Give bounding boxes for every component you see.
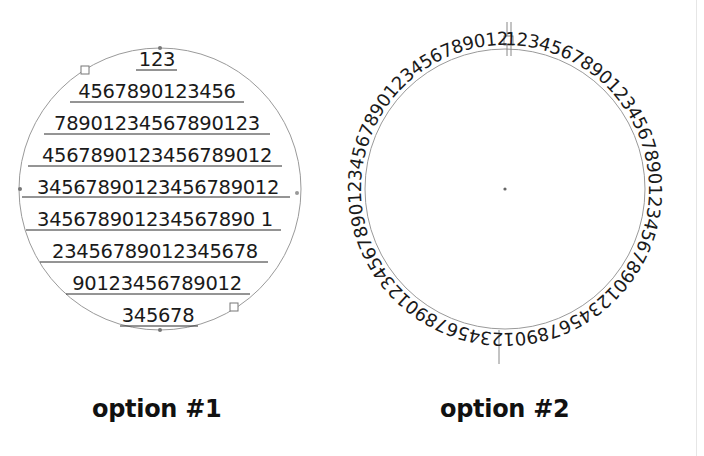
option1-caption: option #1 [92,395,221,423]
option1-text-block[interactable]: 123 4567890123456 78901234567890123 4567… [37,48,279,327]
option1-line-6: 345678901234567890 1 [37,208,273,231]
option1-line-8: 90123456789012 [72,272,242,295]
option1-line-5: 34567890123456789012 [37,176,279,199]
option1-line-2: 4567890123456 [78,80,235,103]
option1-line-7: 23456789012345678 [52,240,258,263]
option1-line-4: 4567890123456789012 [42,144,272,167]
option1-line-3: 78901234567890123 [54,112,260,135]
option1-in-port-handle[interactable] [81,66,89,74]
option1-line-9: 345678 [122,304,195,327]
option1-anchor-left[interactable] [18,187,22,191]
option2-center-point [503,187,506,190]
option1-line-1: 123 [139,48,175,71]
option1-anchor-right[interactable] [295,191,299,195]
option1-out-port-handle[interactable] [230,303,238,311]
option1-group[interactable]: 123 4567890123456 78901234567890123 4567… [18,46,301,332]
canvas: 123 4567890123456 78901234567890123 4567… [0,0,704,456]
option1-anchor-bottom[interactable] [158,328,162,332]
option2-caption: option #2 [440,395,569,423]
